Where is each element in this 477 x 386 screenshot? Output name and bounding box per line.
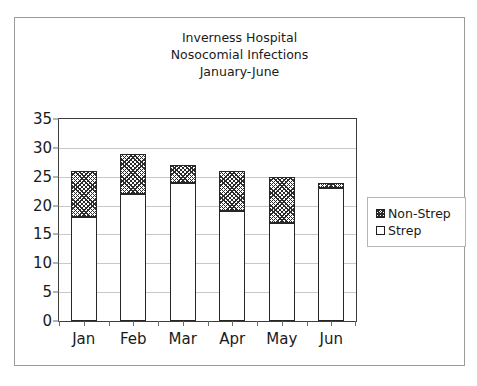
bar-segment-non-strep-apr[interactable]	[219, 171, 245, 211]
chart-frame: Inverness Hospital Nosocomial Infections…	[14, 17, 465, 366]
y-axis-label-15: 15	[33, 225, 52, 243]
x-axis-label-mar: Mar	[169, 330, 197, 348]
bar-group-apr[interactable]	[219, 119, 245, 321]
bar-group-jun[interactable]	[318, 119, 344, 321]
bar-group-mar[interactable]	[170, 119, 196, 321]
x-axis-label-may: May	[266, 330, 297, 348]
y-axis-tick-mark	[53, 234, 59, 235]
x-axis-tick-mark	[257, 321, 258, 326]
x-axis-label-apr: Apr	[219, 330, 245, 348]
y-axis-label-20: 20	[33, 197, 52, 215]
bar-group-feb[interactable]	[120, 119, 146, 321]
y-axis-label-25: 25	[33, 168, 52, 186]
y-axis-label-5: 5	[42, 283, 52, 301]
bar-segment-strep-apr[interactable]	[219, 211, 245, 321]
bar-segment-non-strep-may[interactable]	[269, 177, 295, 223]
chart-title-line-1: Inverness Hospital	[15, 29, 464, 46]
y-axis-tick-mark	[53, 119, 59, 120]
bar-segment-non-strep-mar[interactable]	[170, 165, 196, 182]
y-axis-tick-mark	[53, 205, 59, 206]
chart-title: Inverness Hospital Nosocomial Infections…	[15, 29, 464, 80]
gridline	[59, 292, 356, 293]
legend-item-strep[interactable]: Strep	[376, 222, 459, 239]
x-axis-tick-mark	[307, 321, 308, 326]
bar-segment-non-strep-jan[interactable]	[71, 171, 97, 217]
y-axis-tick-mark	[53, 176, 59, 177]
bar-segment-non-strep-jun[interactable]	[318, 183, 344, 189]
y-axis-tick-mark	[53, 147, 59, 148]
y-axis-label-35: 35	[33, 110, 52, 128]
x-axis-label-jun: Jun	[320, 330, 343, 348]
bar-segment-strep-mar[interactable]	[170, 183, 196, 322]
chart-title-line-2: Nosocomial Infections	[15, 46, 464, 63]
y-axis-label-0: 0	[42, 312, 52, 330]
y-axis-label-10: 10	[33, 254, 52, 272]
x-axis-tick-mark	[59, 321, 60, 326]
legend-item-non-strep[interactable]: Non-Strep	[376, 205, 459, 222]
legend-swatch-non-strep-icon	[376, 209, 385, 218]
gridline	[59, 148, 356, 149]
legend-label-non-strep: Non-Strep	[388, 206, 451, 221]
legend-swatch-strep-icon	[376, 226, 385, 235]
x-axis-tick-mark	[84, 321, 85, 326]
x-axis-tick-mark	[208, 321, 209, 326]
chart-title-line-3: January-June	[15, 63, 464, 80]
bar-group-may[interactable]	[269, 119, 295, 321]
bar-group-jan[interactable]	[71, 119, 97, 321]
y-axis-tick-mark	[53, 263, 59, 264]
plot-area: 05101520253035JanFebMarAprMayJun	[58, 118, 357, 322]
y-axis-label-30: 30	[33, 139, 52, 157]
chart-legend: Non-Strep Strep	[367, 197, 466, 247]
bar-segment-strep-jun[interactable]	[318, 188, 344, 321]
x-axis-label-jan: Jan	[72, 330, 95, 348]
bar-segment-strep-may[interactable]	[269, 223, 295, 321]
bar-segment-strep-jan[interactable]	[71, 217, 97, 321]
bar-segment-non-strep-feb[interactable]	[120, 154, 146, 194]
x-axis-tick-mark	[331, 321, 332, 326]
gridline	[59, 177, 356, 178]
gridline	[59, 206, 356, 207]
x-axis-tick-mark	[158, 321, 159, 326]
x-axis-tick-mark	[183, 321, 184, 326]
y-axis-tick-mark	[53, 292, 59, 293]
gridline	[59, 263, 356, 264]
x-axis-tick-mark	[282, 321, 283, 326]
x-axis-tick-mark	[232, 321, 233, 326]
legend-label-strep: Strep	[388, 223, 421, 238]
x-axis-tick-mark	[133, 321, 134, 326]
bar-segment-strep-feb[interactable]	[120, 194, 146, 321]
x-axis-tick-mark	[355, 321, 356, 326]
gridline	[59, 234, 356, 235]
x-axis-tick-mark	[109, 321, 110, 326]
x-axis-label-feb: Feb	[120, 330, 147, 348]
